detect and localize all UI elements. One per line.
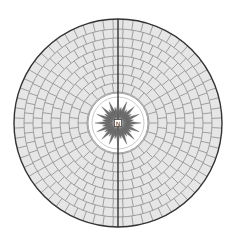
radial-joint <box>194 118 203 119</box>
radial-joint <box>113 199 114 208</box>
figure-caption <box>0 236 235 242</box>
north-label: N <box>116 120 121 127</box>
radial-joint <box>33 128 42 129</box>
radial-joint <box>123 38 124 47</box>
radial-joint <box>113 38 114 47</box>
radial-joint <box>33 118 42 119</box>
radial-joint <box>194 128 203 129</box>
paver-circle-diagram: N <box>0 0 235 242</box>
radial-joint <box>123 199 124 208</box>
